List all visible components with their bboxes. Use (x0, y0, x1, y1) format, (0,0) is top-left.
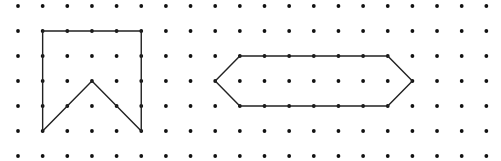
grid-dot (361, 154, 365, 158)
grid-dot (189, 79, 193, 83)
grid-dot (139, 4, 143, 8)
pentagon-notched-shape (43, 31, 142, 131)
grid-dot (164, 104, 168, 108)
grid-dot (411, 154, 415, 158)
grid-dot (361, 129, 365, 133)
grid-dot (435, 54, 439, 58)
grid-dot (312, 154, 316, 158)
grid-dot (115, 4, 119, 8)
grid-dot (287, 29, 291, 33)
grid-dot (435, 79, 439, 83)
grid-dot (238, 154, 242, 158)
grid-dot (164, 154, 168, 158)
grid-dot (287, 79, 291, 83)
grid-dot (386, 79, 390, 83)
grid-dot (115, 129, 119, 133)
grid-dot (484, 4, 488, 8)
grid-dot (460, 154, 464, 158)
grid-dot (287, 4, 291, 8)
grid-dot (213, 154, 217, 158)
grid-dot (139, 154, 143, 158)
grid-dot (16, 4, 20, 8)
grid-dot (337, 29, 341, 33)
grid-dot (189, 154, 193, 158)
grid-dot (238, 129, 242, 133)
grid-dot (484, 129, 488, 133)
grid-dot (435, 4, 439, 8)
grid-dots (16, 4, 488, 158)
grid-dot (164, 29, 168, 33)
grid-dot (189, 4, 193, 8)
grid-dot (213, 4, 217, 8)
grid-dot (65, 54, 69, 58)
grid-dot (337, 154, 341, 158)
grid-dot (435, 29, 439, 33)
grid-dot (287, 129, 291, 133)
dot-grid-diagram (0, 0, 501, 161)
grid-dot (16, 104, 20, 108)
grid-dot (411, 104, 415, 108)
grid-dot (484, 54, 488, 58)
grid-dot (460, 29, 464, 33)
grid-dot (411, 129, 415, 133)
grid-dot (312, 4, 316, 8)
grid-dot (386, 29, 390, 33)
grid-dot (435, 154, 439, 158)
grid-dot (386, 154, 390, 158)
grid-dot (460, 4, 464, 8)
grid-dot (65, 129, 69, 133)
grid-dot (189, 29, 193, 33)
grid-dot (213, 129, 217, 133)
grid-dot (337, 4, 341, 8)
grid-dot (115, 54, 119, 58)
grid-dot (41, 154, 45, 158)
grid-dot (361, 29, 365, 33)
grid-dot (337, 129, 341, 133)
grid-dot (164, 129, 168, 133)
grid-dot (361, 4, 365, 8)
grid-dot (164, 79, 168, 83)
grid-dot (263, 29, 267, 33)
grid-dot (90, 4, 94, 8)
grid-dot (115, 79, 119, 83)
grid-dot (411, 4, 415, 8)
grid-dot (16, 129, 20, 133)
shapes-layer (43, 31, 413, 131)
grid-dot (263, 79, 267, 83)
grid-dot (189, 104, 193, 108)
grid-dot (238, 4, 242, 8)
grid-dot (115, 154, 119, 158)
grid-dot (361, 79, 365, 83)
grid-dot (90, 54, 94, 58)
grid-dot (435, 104, 439, 108)
grid-dot (312, 79, 316, 83)
grid-dot (312, 129, 316, 133)
grid-dot (213, 104, 217, 108)
grid-dot (213, 29, 217, 33)
grid-dot (386, 129, 390, 133)
dot-grid-canvas (0, 0, 501, 161)
grid-dot (263, 154, 267, 158)
grid-dot (386, 4, 390, 8)
grid-dot (263, 129, 267, 133)
grid-dot (90, 154, 94, 158)
grid-dot (164, 54, 168, 58)
grid-dot (460, 104, 464, 108)
grid-dot (484, 79, 488, 83)
grid-dot (460, 54, 464, 58)
grid-dot (435, 129, 439, 133)
grid-dot (411, 54, 415, 58)
grid-dot (16, 154, 20, 158)
grid-dot (238, 29, 242, 33)
grid-dot (263, 4, 267, 8)
grid-dot (164, 4, 168, 8)
grid-dot (41, 4, 45, 8)
grid-dot (287, 154, 291, 158)
grid-dot (65, 154, 69, 158)
grid-dot (337, 79, 341, 83)
grid-dot (484, 154, 488, 158)
grid-dot (16, 79, 20, 83)
grid-dot (460, 79, 464, 83)
grid-dot (16, 29, 20, 33)
grid-dot (238, 79, 242, 83)
